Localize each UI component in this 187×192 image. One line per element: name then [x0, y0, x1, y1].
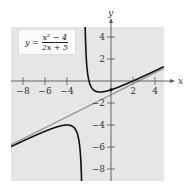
svg-text:−6: −6 [38, 86, 52, 96]
svg-text:y: y [107, 8, 114, 18]
equation-lhs: y = [25, 38, 39, 47]
svg-text:−6: −6 [92, 142, 106, 152]
svg-text:4: 4 [152, 86, 158, 96]
equation-fraction: x² − 4 2x + 5 [41, 33, 69, 52]
svg-text:2: 2 [130, 86, 136, 96]
svg-text:4: 4 [99, 32, 105, 42]
svg-text:−8: −8 [16, 86, 30, 96]
svg-text:x: x [178, 76, 183, 86]
equation-denominator: 2x + 5 [41, 43, 69, 52]
equation-numerator: x² − 4 [42, 33, 69, 43]
svg-text:−4: −4 [60, 86, 74, 96]
equation-label: y = x² − 4 2x + 5 [18, 29, 76, 55]
svg-text:2: 2 [99, 54, 105, 64]
svg-text:−2: −2 [92, 98, 105, 108]
svg-text:−4: −4 [92, 120, 106, 130]
svg-text:−8: −8 [92, 164, 106, 174]
